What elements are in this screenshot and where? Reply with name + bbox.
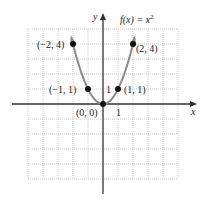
point-label: (−2, 4) (37, 39, 64, 51)
data-point (85, 86, 91, 92)
data-points: (−2, 4)(−1, 1)(0, 0)(1, 1)(2, 4) (37, 39, 158, 119)
y-axis-label: y (92, 11, 98, 22)
x-axis-label: x (190, 106, 196, 117)
x-unit-tick-label: 1 (116, 107, 121, 118)
point-label: (−1, 1) (49, 84, 76, 96)
y-unit-tick-label: 1 (106, 84, 111, 95)
point-label: (2, 4) (136, 43, 158, 55)
function-label: f(x) = x2 (120, 13, 154, 26)
data-point (70, 41, 76, 47)
point-label: (1, 1) (124, 84, 146, 96)
point-label: (0, 0) (76, 107, 98, 119)
function-label-exponent: 2 (150, 13, 154, 21)
function-label-base: f(x) = x (120, 14, 151, 26)
parabola-chart: (−2, 4)(−1, 1)(0, 0)(1, 1)(2, 4) x y 1 1… (0, 0, 211, 204)
data-point (100, 101, 106, 107)
y-axis-arrow-icon (100, 13, 106, 20)
data-point (115, 86, 121, 92)
